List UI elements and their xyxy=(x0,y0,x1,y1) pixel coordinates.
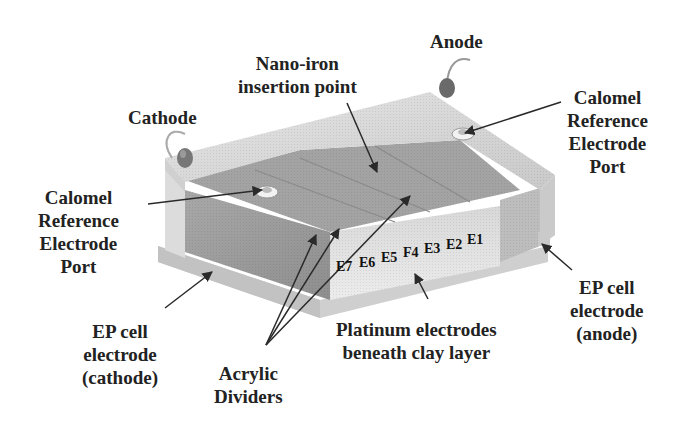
arrow-calomel-right xyxy=(465,102,561,133)
label-line: EP cell xyxy=(570,276,644,299)
label-platinum-electrodes: Platinum electrodes beneath clay layer xyxy=(336,318,497,364)
label-cathode-text: Cathode xyxy=(128,106,197,129)
label-line: insertion point xyxy=(238,75,357,98)
label-line: electrode xyxy=(82,343,158,366)
label-nano-iron-insertion-point: Nano-iron insertion point xyxy=(238,52,357,98)
label-line: Port xyxy=(567,155,648,178)
label-ep-cell-cathode: EP cell electrode (cathode) xyxy=(82,320,158,389)
label-line: (anode) xyxy=(570,322,644,345)
ep-cell-diagram: E7 E6 E5 F4 E3 E2 E1 Anode Cathode Nano-… xyxy=(0,0,699,432)
electrode-label-e2: E2 xyxy=(446,237,462,253)
electrode-label-e3: E3 xyxy=(424,241,440,257)
arrow-ep-cathode xyxy=(165,272,212,308)
calomel-port-right xyxy=(452,128,474,140)
calomel-port-left xyxy=(256,186,278,198)
label-line: Reference xyxy=(38,209,119,232)
electrode-label-f4: F4 xyxy=(403,245,419,261)
label-anode-text: Anode xyxy=(430,30,483,53)
label-line: Nano-iron xyxy=(238,52,357,75)
label-anode: Anode xyxy=(430,30,483,53)
label-line: Reference xyxy=(567,109,648,132)
label-ep-cell-anode: EP cell electrode (anode) xyxy=(570,276,644,345)
label-line: Electrode xyxy=(567,132,648,155)
electrode-label-e7: E7 xyxy=(336,259,352,275)
label-line: electrode xyxy=(570,299,644,322)
label-calomel-left: Calomel Reference Electrode Port xyxy=(38,186,119,278)
electrode-label-e5: E5 xyxy=(381,250,397,266)
label-line: Calomel xyxy=(567,86,648,109)
electrode-label-e6: E6 xyxy=(359,255,375,271)
label-line: Acrylic xyxy=(214,362,283,385)
label-line: Platinum electrodes xyxy=(336,318,497,341)
label-calomel-right: Calomel Reference Electrode Port xyxy=(567,86,648,178)
label-line: Calomel xyxy=(38,186,119,209)
label-line: Dividers xyxy=(214,385,283,408)
label-line: EP cell xyxy=(82,320,158,343)
label-line: (cathode) xyxy=(82,366,158,389)
label-line: beneath clay layer xyxy=(336,341,497,364)
label-cathode: Cathode xyxy=(128,106,197,129)
electrode-label-e1: E1 xyxy=(467,232,483,248)
label-line: Port xyxy=(38,255,119,278)
anode-terminal xyxy=(439,59,470,98)
label-line: Electrode xyxy=(38,232,119,255)
label-acrylic-dividers: Acrylic Dividers xyxy=(214,362,283,408)
